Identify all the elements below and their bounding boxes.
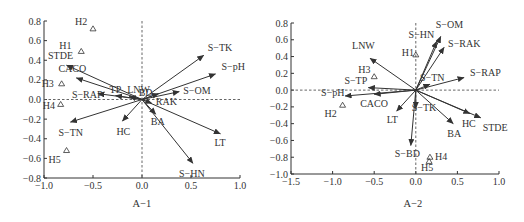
y-tick-label: −1.0 [270,169,288,180]
y-tick-label: 0.2 [29,74,42,85]
site-label: H5 [49,154,61,165]
x-tick-label: 0.5 [185,180,198,191]
vector-label: CACO [360,98,388,109]
y-tick-label: −0.8 [270,152,288,163]
vector-label: S−HN [179,168,205,179]
x-tick-label: 1.0 [493,176,506,187]
site-label: H3 [42,78,54,89]
vector-arrow [370,58,416,90]
vector-label: S−TN [58,127,83,138]
site-label: H2 [325,108,337,119]
y-tick-label: 0.8 [276,18,289,29]
vector-label: S−RAP [470,67,501,78]
site-label: H2 [75,16,87,27]
site-label: H4 [435,151,447,162]
site-label: H4 [43,100,55,111]
site-triangle-icon [371,74,377,79]
vector-label: HC [462,118,476,129]
y-tick-label: 0.0 [29,94,42,105]
y-tick-label: 0.0 [276,85,289,96]
chart-a1-title: A−1 [133,198,152,209]
x-tick-label: 0.5 [451,176,464,187]
vector-label: LT [387,114,398,125]
vector-label: BA [447,128,462,139]
site-triangle-icon [59,81,65,86]
vector-label: STDE [48,50,73,61]
y-tick-label: −0.4 [23,133,41,144]
site-label: H1 [402,47,414,58]
vector-label: CACO [58,63,86,74]
site-triangle-icon [427,154,433,159]
x-tick-label: 0.0 [136,180,149,191]
vector-label: LNW [352,40,375,51]
y-tick-label: −0.2 [23,114,41,125]
y-tick-label: −0.8 [23,173,41,184]
vector-label: S−HN [409,29,435,40]
vector-label: S−RAP [72,89,103,100]
vector-label: S−TK [208,42,233,53]
site-triangle-icon [90,26,96,31]
chart-a1-vectors: S−TKS−pHSTDECACOS−RAPTPLNWBDS−OMRAKBAHCS… [48,42,245,179]
vector-label: STDE [483,122,508,133]
chart-a1: −1.0−0.50.00.51.00.80.60.40.20.0−0.2−0.4… [23,16,246,210]
y-tick-label: −0.4 [270,118,288,129]
chart-a2: −1.5−1.0−0.50.00.51.00.80.60.40.20.0−0.2… [270,18,508,210]
chart-a2-title: A−2 [404,198,423,209]
y-tick-label: 0.6 [29,35,42,46]
vector-arrow [374,90,416,94]
x-tick-label: 0.0 [410,176,423,187]
vector-label: S−BD [395,148,420,159]
vector-label: S−pH [321,87,344,98]
vector-label: S−OM [183,85,210,96]
y-tick-label: 0.6 [276,34,289,45]
y-tick-label: 0.8 [29,16,42,27]
site-label: H3 [358,64,370,75]
x-tick-label: 1.0 [234,180,247,191]
x-tick-label: −0.5 [365,176,383,187]
chart-a2-vectors: S−OMS−HNS−RAKS−TNS−RAPLNWS−TPS−pHCACOLTS… [321,19,508,159]
vector-label: BD [139,87,153,98]
y-tick-label: −0.6 [270,135,288,146]
x-tick-label: −0.5 [84,180,102,191]
vector-label: S−TP [344,75,367,86]
site-triangle-icon [58,101,64,106]
vector-label: HC [116,126,130,137]
y-tick-label: −0.2 [270,101,288,112]
y-tick-label: 0.4 [29,55,42,66]
vector-label: S−pH [222,61,245,72]
vector-label: S−TK [412,102,437,113]
vector-arrow [411,90,416,145]
vector-label: S−TN [420,72,445,83]
y-tick-label: 0.2 [276,68,289,79]
site-label: H5 [421,162,433,173]
site-triangle-icon [78,48,84,53]
site-triangle-icon [340,102,346,107]
x-tick-label: −1.0 [324,176,342,187]
vector-label: S−OM [436,19,463,30]
vector-label: RAK [156,96,178,107]
y-tick-label: −0.6 [23,153,41,164]
site-label: H1 [59,40,71,51]
vector-label: TP [110,84,122,95]
vector-label: LT [214,137,225,148]
vector-arrow [142,100,193,164]
biplot-figure: −1.0−0.50.00.51.00.80.60.40.20.0−0.2−0.4… [0,0,524,222]
y-tick-label: 0.4 [276,51,289,62]
site-triangle-icon [64,148,70,153]
vector-label: S−RAK [448,38,481,49]
